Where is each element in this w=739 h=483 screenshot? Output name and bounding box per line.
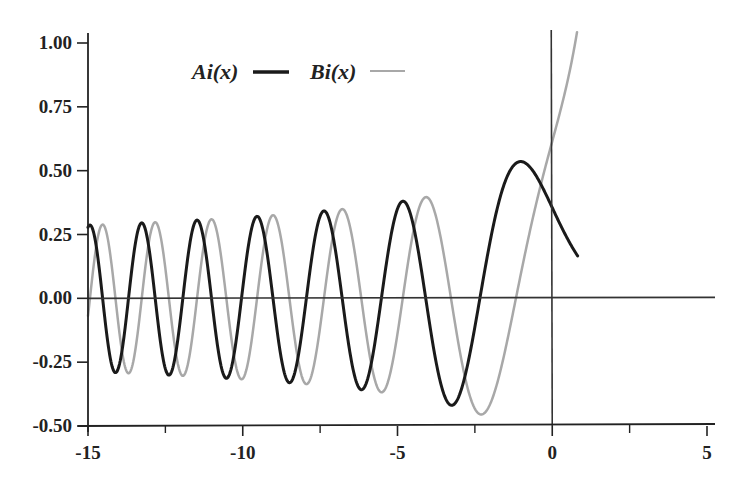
y-tick-label: -0.50 <box>32 415 72 436</box>
x-tick-label: -10 <box>230 442 255 463</box>
ai-curve <box>88 162 578 406</box>
y-tick-label: 0.50 <box>39 160 72 181</box>
x-axis-line <box>78 424 715 426</box>
x-tick-label: 5 <box>702 442 712 463</box>
x-tick-label: -5 <box>390 442 406 463</box>
y-tick-label: 0.75 <box>39 96 72 117</box>
y-axis-ticks: -0.50-0.250.000.250.500.751.00 <box>32 32 88 436</box>
y-tick-label: 1.00 <box>39 32 72 53</box>
zero-line-vertical <box>551 30 552 426</box>
legend: Ai(x) Bi(x) <box>190 59 405 84</box>
x-tick-label: -15 <box>75 442 100 463</box>
airy-functions-chart: -0.50-0.250.000.250.500.751.00 -15-10-50… <box>0 0 739 483</box>
legend-label-ai: Ai(x) <box>190 59 238 84</box>
x-tick-label: 0 <box>548 442 558 463</box>
reference-lines <box>88 30 715 426</box>
y-tick-label: 0.25 <box>39 224 72 245</box>
zero-line-horizontal <box>88 297 715 298</box>
plot-curves <box>88 32 578 414</box>
x-axis-ticks: -15-10-505 <box>75 425 711 463</box>
y-tick-label: 0.00 <box>39 287 72 308</box>
axes <box>78 33 715 432</box>
legend-label-bi: Bi(x) <box>309 59 356 84</box>
y-tick-label: -0.25 <box>32 351 72 372</box>
